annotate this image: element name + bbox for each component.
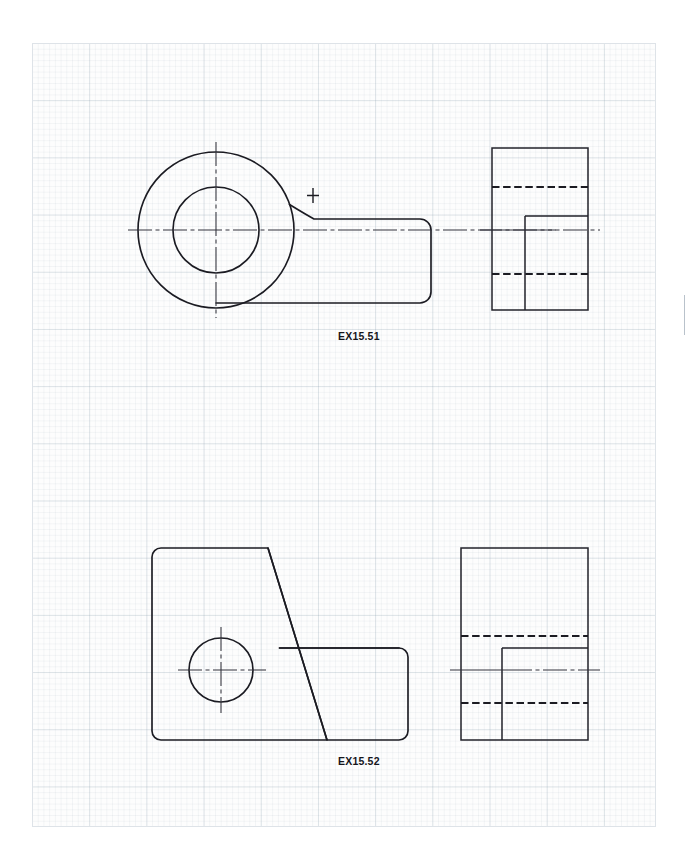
ex15-52-front-view bbox=[152, 548, 408, 740]
side-view-2-outline bbox=[461, 548, 588, 740]
sheet-right-edge-mark bbox=[684, 295, 685, 335]
bracket-diagonal-edge bbox=[268, 548, 327, 740]
drawing-sheet: EX15.51 EX15.52 bbox=[0, 0, 687, 864]
ex15-52-drawing-group bbox=[0, 0, 687, 864]
ex15-52-side-view bbox=[450, 548, 600, 740]
ex15-52-label: EX15.52 bbox=[338, 755, 380, 767]
bracket-outline bbox=[152, 548, 408, 740]
